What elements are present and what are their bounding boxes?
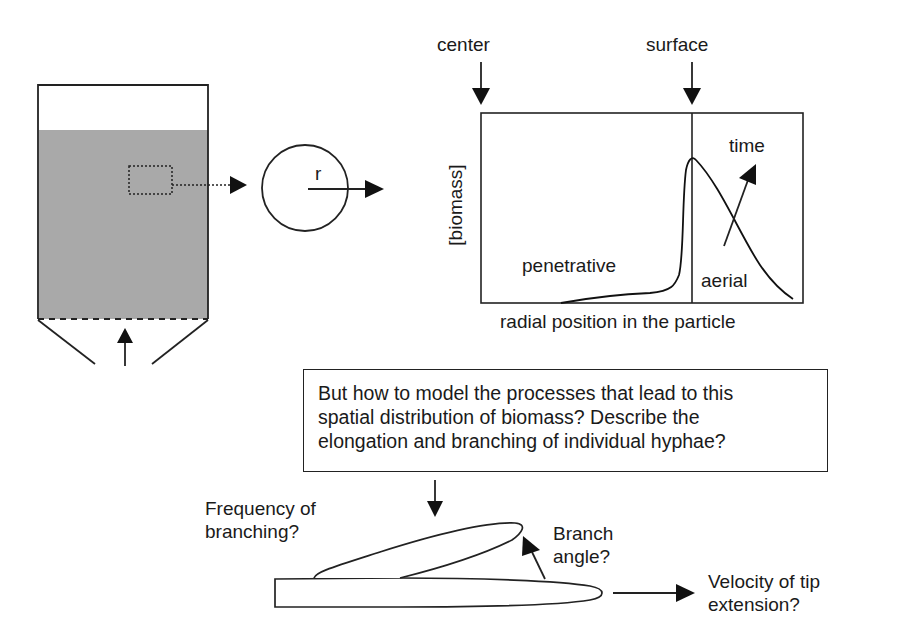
question-line-2: spatial distribution of biomass? Describ… bbox=[318, 405, 813, 429]
cone-right bbox=[152, 320, 208, 364]
branch-angle-label-1: Branch bbox=[553, 522, 613, 545]
penetrative-label: penetrative bbox=[522, 254, 616, 277]
tip-extension-arrow-icon bbox=[613, 584, 695, 602]
surface-arrow-icon bbox=[683, 62, 701, 105]
y-axis-label: [biomass] bbox=[445, 164, 467, 245]
tip-velocity-label-2: extension? bbox=[708, 593, 800, 616]
branching-frequency-label-1: Frequency of bbox=[205, 497, 316, 520]
tip-velocity-label-1: Velocity of tip bbox=[708, 570, 820, 593]
center-arrow-icon bbox=[472, 62, 490, 105]
branch-angle-arrow-icon bbox=[522, 536, 545, 579]
question-line-1: But how to model the processes that lead… bbox=[318, 381, 813, 405]
time-trend-arrow-icon bbox=[724, 164, 756, 246]
center-label: center bbox=[437, 33, 490, 56]
particle bbox=[262, 145, 384, 231]
hypha bbox=[275, 523, 695, 607]
main-hypha bbox=[275, 578, 602, 607]
packed-bed bbox=[39, 130, 208, 319]
cone-left bbox=[38, 320, 95, 364]
diagram-canvas bbox=[0, 0, 909, 644]
question-line-3: elongation and branching of individual h… bbox=[318, 429, 813, 453]
branching-frequency-label-2: branching? bbox=[205, 520, 299, 543]
branch-hypha bbox=[314, 523, 522, 578]
branch-angle-label-2: angle? bbox=[553, 545, 610, 568]
radius-label: r bbox=[315, 162, 321, 185]
biomass-curve bbox=[561, 158, 793, 303]
reactor bbox=[38, 85, 247, 366]
time-label: time bbox=[729, 134, 765, 157]
question-down-arrow-icon bbox=[427, 480, 443, 517]
surface-label: surface bbox=[646, 33, 708, 56]
x-axis-label: radial position in the particle bbox=[500, 310, 736, 333]
aerial-label: aerial bbox=[701, 269, 747, 292]
air-inflow-arrow-icon bbox=[117, 328, 133, 366]
question-box: But how to model the processes that lead… bbox=[303, 369, 828, 472]
